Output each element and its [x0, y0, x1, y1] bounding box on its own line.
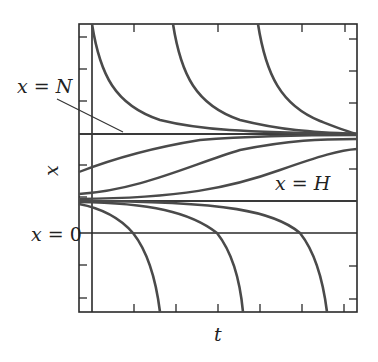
right-ticks: [349, 39, 357, 299]
left-ticks: [79, 37, 87, 298]
h-line-label: x = H: [275, 172, 331, 194]
diagram: x = N x = H x = 0 x t: [0, 0, 378, 362]
curves-above-n: [92, 24, 357, 134]
curves-below-h: [79, 201, 327, 312]
top-ticks: [134, 24, 345, 32]
n-line-label: x = N: [17, 75, 74, 97]
zero-line-label: x = 0: [31, 223, 82, 245]
n-label-pointer: [57, 99, 123, 132]
x-axis-label: t: [214, 323, 222, 345]
bottom-ticks: [134, 304, 344, 312]
y-axis-label: x: [40, 165, 62, 176]
plot-frame: [79, 24, 357, 312]
